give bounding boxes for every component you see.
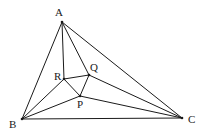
vertex-a xyxy=(61,21,64,24)
segment-cq xyxy=(89,75,182,118)
segment-bp xyxy=(22,96,80,119)
label-c: C xyxy=(188,113,195,125)
vertex-r xyxy=(63,78,66,81)
label-a: A xyxy=(55,6,63,18)
vertex-q xyxy=(88,74,91,77)
triangle-diagram: ABCRQP xyxy=(0,0,205,130)
vertex-p xyxy=(79,95,82,98)
segment-ar xyxy=(62,22,64,79)
segment-rq xyxy=(64,75,89,79)
segment-bc xyxy=(22,118,182,119)
vertex-b xyxy=(21,118,24,121)
label-r: R xyxy=(54,70,62,82)
segment-aq xyxy=(62,22,89,75)
segment-cp xyxy=(80,96,182,118)
segment-br xyxy=(22,79,64,119)
segment-qp xyxy=(80,75,89,96)
segment-rp xyxy=(64,79,80,96)
label-b: B xyxy=(9,118,16,130)
geometry-figure: ABCRQP xyxy=(0,0,205,130)
vertex-c xyxy=(181,117,184,120)
label-p: P xyxy=(77,98,83,110)
label-q: Q xyxy=(90,61,98,73)
